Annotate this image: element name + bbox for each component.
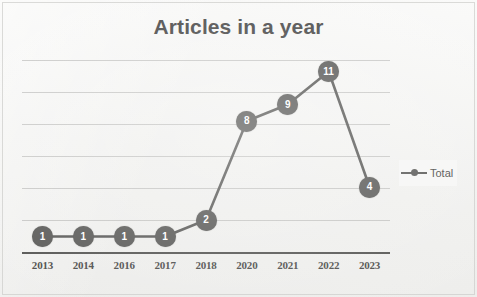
x-tick-label: 2021 bbox=[265, 259, 311, 271]
x-axis-line bbox=[22, 252, 390, 254]
chart-screenshot: Articles in a year 1111289114 2013201420… bbox=[0, 0, 477, 297]
data-point-marker[interactable]: 4 bbox=[359, 177, 380, 198]
x-tick-label: 2020 bbox=[224, 259, 270, 271]
legend-marker-icon bbox=[401, 168, 427, 178]
x-tick-label: 2018 bbox=[183, 259, 229, 271]
x-tick-label: 2023 bbox=[347, 259, 393, 271]
data-point-marker[interactable]: 1 bbox=[73, 226, 94, 247]
chart-title: Articles in a year bbox=[0, 15, 477, 39]
x-axis-tick-labels: 201320142016201720182020202120222023 bbox=[22, 259, 390, 279]
x-tick-label: 2013 bbox=[19, 259, 65, 271]
x-tick-label: 2016 bbox=[101, 259, 147, 271]
data-point-marker[interactable]: 1 bbox=[32, 226, 53, 247]
chart-legend[interactable]: Total bbox=[399, 160, 457, 186]
x-tick-label: 2022 bbox=[306, 259, 352, 271]
plot-area: 1111289114 bbox=[22, 55, 390, 253]
data-point-marker[interactable]: 11 bbox=[318, 61, 339, 82]
x-tick-label: 2014 bbox=[60, 259, 106, 271]
data-point-marker[interactable]: 2 bbox=[196, 210, 217, 231]
x-tick-label: 2017 bbox=[142, 259, 188, 271]
data-point-marker[interactable]: 1 bbox=[155, 226, 176, 247]
data-point-marker[interactable]: 1 bbox=[114, 226, 135, 247]
data-point-marker[interactable]: 8 bbox=[236, 111, 257, 132]
legend-dot-icon bbox=[411, 169, 418, 176]
legend-label-total: Total bbox=[430, 167, 453, 179]
